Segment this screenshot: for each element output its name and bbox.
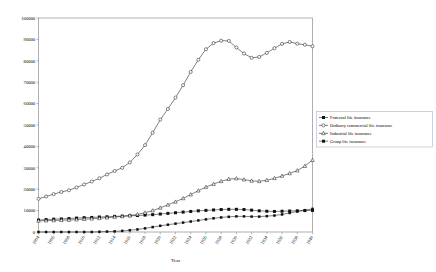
data-point bbox=[235, 215, 238, 218]
data-point bbox=[151, 213, 154, 216]
data-point bbox=[75, 186, 78, 189]
chart-figure: 0100002000030000400005000060000700008000… bbox=[0, 0, 436, 272]
data-point bbox=[151, 131, 154, 134]
data-point bbox=[197, 189, 200, 192]
data-point bbox=[227, 39, 230, 42]
data-point bbox=[204, 209, 207, 212]
y-tick-label: 10000 bbox=[24, 208, 36, 213]
data-point bbox=[83, 183, 86, 186]
data-point bbox=[250, 56, 253, 59]
data-point bbox=[212, 217, 215, 220]
x-tick-label: 1904 bbox=[31, 234, 40, 245]
legend-marker bbox=[322, 116, 325, 119]
data-point bbox=[250, 215, 253, 218]
x-tick-label: 1920 bbox=[153, 234, 162, 245]
data-point bbox=[37, 197, 40, 200]
legend-marker bbox=[322, 124, 325, 127]
data-point bbox=[113, 169, 116, 172]
x-tick-label: 1932 bbox=[244, 234, 253, 245]
data-point bbox=[243, 215, 246, 218]
series-group bbox=[37, 39, 314, 233]
data-point bbox=[296, 169, 299, 172]
line-chart: 0100002000030000400005000060000700008000… bbox=[0, 0, 436, 272]
y-tick-group: 0100002000030000400005000060000700008000… bbox=[21, 16, 38, 235]
data-point bbox=[311, 208, 314, 211]
data-point bbox=[197, 209, 200, 212]
data-point bbox=[258, 55, 261, 58]
x-tick-label: 1938 bbox=[290, 234, 299, 245]
data-point bbox=[281, 42, 284, 45]
legend-label: Ordinary commercial life insurance bbox=[330, 123, 393, 128]
data-point bbox=[288, 212, 291, 215]
data-point bbox=[273, 214, 276, 217]
data-point bbox=[181, 197, 184, 200]
x-axis-title: Year bbox=[171, 258, 181, 263]
x-tick-label: 1922 bbox=[168, 234, 177, 245]
data-point bbox=[121, 166, 124, 169]
data-point bbox=[303, 164, 306, 167]
data-point bbox=[166, 107, 169, 110]
y-axis: 0100002000030000400005000060000700008000… bbox=[21, 16, 38, 235]
data-point bbox=[296, 42, 299, 45]
y-tick-label: 100000 bbox=[21, 16, 35, 21]
data-point bbox=[174, 96, 177, 99]
data-point bbox=[151, 226, 154, 229]
y-tick-label: 40000 bbox=[24, 144, 36, 149]
y-tick-label: 90000 bbox=[24, 37, 36, 42]
data-point bbox=[144, 144, 147, 147]
data-point bbox=[68, 231, 71, 234]
data-point bbox=[98, 177, 101, 180]
data-point bbox=[228, 216, 231, 219]
data-point bbox=[67, 189, 70, 192]
y-tick-label: 80000 bbox=[24, 59, 36, 64]
data-point bbox=[91, 231, 94, 234]
data-point bbox=[311, 158, 314, 161]
data-point bbox=[128, 161, 131, 164]
data-point bbox=[45, 195, 48, 198]
data-point bbox=[304, 209, 307, 212]
series-line bbox=[39, 209, 313, 220]
series-line bbox=[39, 41, 313, 199]
x-tick-label: 1934 bbox=[260, 234, 269, 245]
data-point bbox=[296, 210, 299, 213]
data-point bbox=[242, 52, 245, 55]
x-tick-label: 1926 bbox=[199, 234, 208, 245]
data-point bbox=[144, 227, 147, 230]
legend-item-1[interactable]: Ordinary commercial life insurance bbox=[319, 123, 393, 128]
data-point bbox=[182, 221, 185, 224]
data-point bbox=[220, 216, 223, 219]
data-point bbox=[129, 229, 132, 232]
legend-label: Industrial life insurance bbox=[330, 131, 372, 136]
data-point bbox=[121, 230, 124, 233]
data-point bbox=[197, 58, 200, 61]
data-point bbox=[243, 208, 246, 211]
data-point bbox=[189, 70, 192, 73]
data-point bbox=[189, 193, 192, 196]
y-tick-label: 50000 bbox=[24, 123, 36, 128]
data-point bbox=[258, 209, 261, 212]
data-point bbox=[235, 208, 238, 211]
data-point bbox=[227, 208, 230, 211]
data-point bbox=[159, 213, 162, 216]
data-point bbox=[159, 225, 162, 228]
data-point bbox=[258, 215, 261, 218]
data-point bbox=[197, 219, 200, 222]
data-point bbox=[281, 213, 284, 216]
data-point bbox=[220, 208, 223, 211]
data-point bbox=[288, 40, 291, 43]
data-point bbox=[235, 177, 238, 180]
legend-label: Group life insurance bbox=[330, 139, 366, 144]
data-point bbox=[281, 210, 284, 213]
x-tick-label: 1910 bbox=[77, 234, 86, 245]
data-point bbox=[60, 231, 63, 234]
data-point bbox=[182, 84, 185, 87]
data-point bbox=[189, 220, 192, 223]
x-tick-label: 1936 bbox=[275, 234, 284, 245]
data-point bbox=[205, 218, 208, 221]
data-point bbox=[266, 215, 269, 218]
x-tick-label: 1914 bbox=[107, 234, 116, 245]
data-point bbox=[303, 43, 306, 46]
x-tick-label: 1918 bbox=[138, 234, 147, 245]
data-point bbox=[235, 46, 238, 49]
x-tick-group: 1904190619081910191219141916191819201922… bbox=[31, 232, 314, 245]
